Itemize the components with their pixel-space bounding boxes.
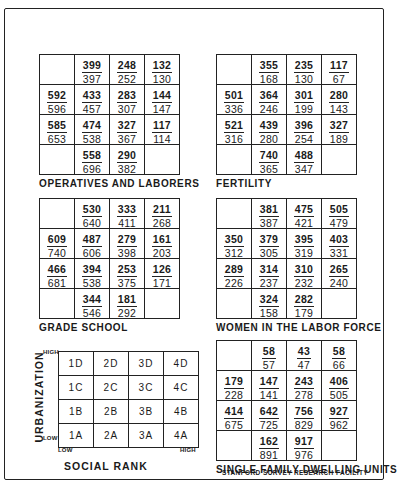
fraction: 487606 [82, 234, 102, 258]
empty-cell [40, 199, 75, 229]
numerator: 917 [294, 436, 314, 449]
grid-row: 179228147141243278406505 [217, 371, 357, 401]
key-cell: 1A [59, 424, 94, 448]
fraction: 161203 [152, 234, 172, 258]
denominator: 976 [295, 449, 313, 461]
grid-cell: 505479 [322, 199, 357, 229]
denominator: 606 [83, 247, 101, 259]
numerator: 243 [294, 376, 314, 389]
denominator: 232 [295, 277, 313, 289]
numerator: 505 [329, 204, 349, 217]
numerator: 282 [294, 294, 314, 307]
fraction: 609740 [47, 234, 67, 258]
empty-cell [322, 289, 357, 319]
numerator: 740 [259, 150, 279, 163]
fraction: 642725 [259, 406, 279, 430]
empty-cell [217, 431, 252, 461]
denominator: 829 [295, 419, 313, 431]
key-cell: 3B [129, 400, 164, 424]
grid-cell: 501336 [217, 85, 252, 115]
grid-cell: 487606 [75, 229, 110, 259]
fraction: 181292 [117, 294, 137, 318]
fraction: 243278 [294, 376, 314, 400]
grid-row: 344546181292 [40, 289, 180, 319]
fraction: 364246 [259, 90, 279, 114]
fraction: 279398 [117, 234, 137, 258]
numerator: 289 [224, 264, 244, 277]
fraction: 585653 [47, 120, 67, 144]
grid-cell: 381387 [252, 199, 287, 229]
grid-cell: 488347 [287, 145, 322, 175]
key-cell: 1B [59, 400, 94, 424]
fraction: 414675 [224, 406, 244, 430]
fraction: 381387 [259, 204, 279, 228]
x-low-label: LOW [58, 447, 73, 453]
key-cell: 4C [164, 376, 199, 400]
grid-cell: 344546 [75, 289, 110, 319]
grid-row: 289226314237310232265240 [217, 259, 357, 289]
denominator: 962 [330, 419, 348, 431]
numerator: 162 [259, 436, 279, 449]
denominator: 143 [330, 103, 348, 115]
empty-cell [217, 289, 252, 319]
grid-row: 530640333411211268 [40, 199, 180, 229]
numerator: 466 [47, 264, 67, 277]
numerator: 310 [294, 264, 314, 277]
data-grid: 3813874754215054793503123793053953194033… [216, 198, 357, 319]
grid-cell: 132130 [145, 55, 180, 85]
numerator: 927 [329, 406, 349, 419]
grid-cell: 917976 [287, 431, 322, 461]
fraction: 475421 [294, 204, 314, 228]
y-axis-label: URBANIZATION [33, 351, 45, 442]
panel-single-family-dwelling-units: 5857434758661792281471412432784065054146… [216, 340, 397, 475]
denominator: 411 [118, 217, 136, 229]
numerator: 327 [329, 120, 349, 133]
denominator: 292 [118, 307, 136, 319]
source-credit: STANFORD SURVEY RESEARCH FACILITY [222, 469, 368, 476]
fraction: 927962 [329, 406, 349, 430]
numerator: 642 [259, 406, 279, 419]
empty-cell [145, 145, 180, 175]
grid-cell: 280143 [322, 85, 357, 115]
denominator: 246 [260, 103, 278, 115]
fraction: 211268 [152, 204, 172, 228]
denominator: 505 [330, 389, 348, 401]
grid-cell: 466681 [40, 259, 75, 289]
grid-row: 521316439280396254327189 [217, 115, 357, 145]
grid-cell: 314237 [252, 259, 287, 289]
fraction: 396254 [294, 120, 314, 144]
numerator: 403 [329, 234, 349, 247]
panel-grade-school: 5306403334112112686097404876062793981612… [39, 198, 180, 333]
numerator: 290 [117, 150, 137, 163]
denominator: 57 [263, 359, 275, 371]
numerator: 433 [82, 90, 102, 103]
denominator: 397 [83, 73, 101, 85]
numerator: 355 [259, 60, 279, 73]
numerator: 474 [82, 120, 102, 133]
numerator: 381 [259, 204, 279, 217]
denominator: 240 [330, 277, 348, 289]
grid-cell: 5866 [322, 341, 357, 371]
fraction: 132130 [152, 60, 172, 84]
fraction: 530640 [82, 204, 102, 228]
empty-cell [145, 289, 180, 319]
numerator: 558 [82, 150, 102, 163]
numerator: 126 [152, 264, 172, 277]
denominator: 367 [118, 133, 136, 145]
grid-cell: 243278 [287, 371, 322, 401]
denominator: 382 [118, 163, 136, 175]
key-cell: 1C [59, 376, 94, 400]
numerator: 364 [259, 90, 279, 103]
numerator: 248 [117, 60, 137, 73]
grid-row: 740365488347 [217, 145, 357, 175]
grid-cell: 740365 [252, 145, 287, 175]
empty-cell [217, 145, 252, 175]
grid-cell: 301199 [287, 85, 322, 115]
denominator: 203 [153, 247, 171, 259]
grid-row: 35516823513011767 [217, 55, 357, 85]
grid-cell: 414675 [217, 401, 252, 431]
fraction: 501336 [224, 90, 244, 114]
numerator: 475 [294, 204, 314, 217]
grid-row: 592596433457283307144147 [40, 85, 180, 115]
fraction: 466681 [47, 264, 67, 288]
